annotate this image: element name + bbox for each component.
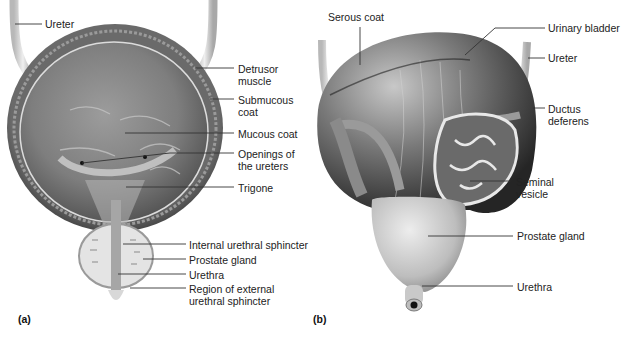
label-a-trigone: Trigone: [238, 182, 273, 194]
label-b-prostate-gland: Prostate gland: [517, 230, 585, 242]
label-a-detrusor-muscle: Detrusor muscle: [238, 63, 278, 87]
panel-a-tag: (a): [18, 313, 31, 325]
label-b-urinary-bladder: Urinary bladder: [548, 22, 620, 34]
panel-b-tag: (b): [313, 313, 326, 325]
label-line: deferens: [548, 115, 589, 127]
label-b-ductus-deferens: Ductus deferens: [548, 103, 589, 127]
label-a-ureter: Ureter: [45, 18, 74, 30]
label-line: Submucous: [238, 94, 293, 106]
label-line: Ductus: [548, 103, 589, 115]
label-line: urethral sphincter: [189, 295, 274, 307]
label-a-submucous-coat: Submucous coat: [238, 94, 293, 118]
label-a-external-urethral-sphincter: Region of external urethral sphincter: [189, 283, 274, 307]
label-line: the ureters: [238, 160, 295, 172]
label-line: Region of external: [189, 283, 274, 295]
label-b-seminal-vesicle: Seminal vesicle: [516, 176, 554, 200]
label-line: vesicle: [516, 188, 554, 200]
label-line: coat: [238, 106, 293, 118]
label-line: Openings of: [238, 148, 295, 160]
label-a-internal-urethral-sphincter: Internal urethral sphincter: [189, 239, 308, 251]
label-a-urethra: Urethra: [189, 269, 224, 281]
panel-b-art: [317, 32, 536, 311]
label-b-urethra: Urethra: [517, 281, 552, 293]
label-line: Detrusor: [238, 63, 278, 75]
label-a-prostate-gland: Prostate gland: [189, 254, 257, 266]
label-b-serous-coat: Serous coat: [328, 11, 384, 23]
bladder-anatomy-figure: Ureter Detrusor muscle Submucous coat Mu…: [0, 0, 634, 339]
label-line: muscle: [238, 75, 278, 87]
label-a-mucous-coat: Mucous coat: [238, 128, 298, 140]
label-a-openings-of-ureters: Openings of the ureters: [238, 148, 295, 172]
label-b-ureter: Ureter: [548, 52, 577, 64]
label-line: Seminal: [516, 176, 554, 188]
